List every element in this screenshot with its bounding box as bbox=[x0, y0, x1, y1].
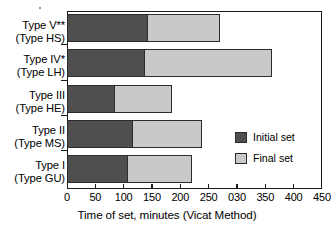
legend-label: Initial set bbox=[253, 131, 295, 143]
x-axis-tick bbox=[123, 184, 124, 189]
legend-item-final-set[interactable]: Final set bbox=[235, 150, 295, 166]
bar-row-type-iv bbox=[0, 49, 334, 77]
bar-segment-initial-set bbox=[67, 14, 148, 42]
bar-segment-final-set bbox=[127, 155, 192, 183]
x-axis-title: Time of set, minutes (Vicat Method) bbox=[0, 208, 334, 221]
legend: Initial set Final set bbox=[235, 129, 295, 171]
y-axis-tick bbox=[61, 115, 67, 116]
x-axis-tick-label: 450 bbox=[305, 191, 334, 203]
y-axis-tick bbox=[61, 80, 67, 81]
x-axis-tick bbox=[95, 184, 96, 189]
x-axis-tick bbox=[151, 184, 152, 189]
bar-segment-final-set bbox=[144, 49, 272, 77]
bar-segment-initial-set bbox=[67, 49, 145, 77]
bar-segment-initial-set bbox=[67, 120, 133, 148]
bar-chart: Type V** (Type HS) Type IV* (Type LH) Ty… bbox=[0, 0, 334, 235]
y-axis-tick bbox=[61, 44, 67, 45]
x-axis-tick bbox=[180, 184, 181, 189]
bar-row-type-iii bbox=[0, 85, 334, 113]
y-axis-tick bbox=[61, 150, 67, 151]
legend-swatch-icon bbox=[235, 153, 247, 164]
bar-segment-final-set bbox=[147, 14, 220, 42]
x-axis-tick bbox=[236, 184, 237, 189]
scan-speck bbox=[39, 7, 41, 9]
legend-swatch-icon bbox=[235, 132, 247, 143]
bar-segment-initial-set bbox=[67, 85, 115, 113]
bar-segment-final-set bbox=[132, 120, 202, 148]
x-axis-tick bbox=[265, 184, 266, 189]
legend-item-initial-set[interactable]: Initial set bbox=[235, 129, 295, 145]
x-axis-tick bbox=[208, 184, 209, 189]
bar-row-type-v bbox=[0, 14, 334, 42]
bar-segment-final-set bbox=[114, 85, 172, 113]
bar-segment-initial-set bbox=[67, 155, 128, 183]
x-axis-tick bbox=[293, 184, 294, 189]
legend-label: Final set bbox=[253, 152, 293, 164]
